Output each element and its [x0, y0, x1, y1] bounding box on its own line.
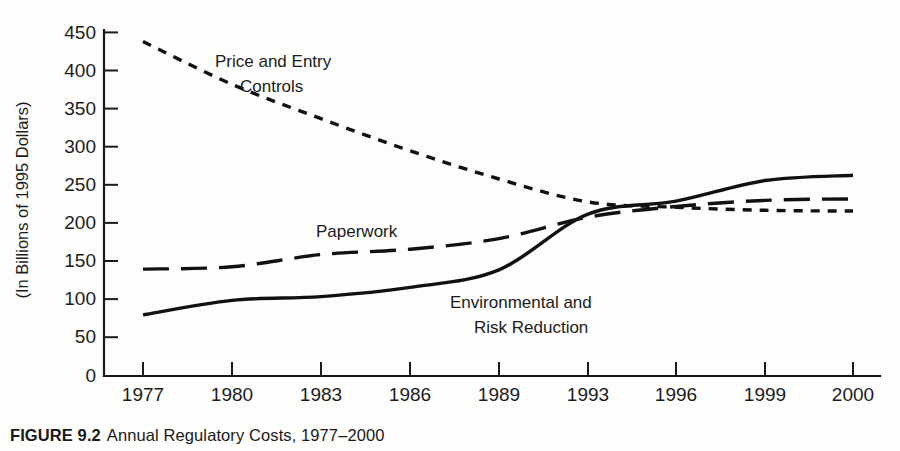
annotation-environmental-and-risk-reduction: Environmental and Risk Reduction [450, 293, 592, 337]
x-tick-label-1986: 1986 [389, 384, 431, 405]
figure-caption-text: Annual Regulatory Costs, 1977–2000 [107, 426, 385, 444]
y-tick-label-400: 400 [64, 60, 96, 81]
y-tick-label-0: 0 [85, 365, 96, 386]
x-tick-label-1999: 1999 [744, 384, 786, 405]
x-tick-label-1980: 1980 [211, 384, 253, 405]
regulatory-costs-line-chart: (In Billions of 1995 Dollars) 450 400 35… [0, 0, 900, 451]
figure-caption-label: FIGURE 9.2 [10, 426, 101, 444]
annotation-environmental-line2: Risk Reduction [474, 318, 588, 337]
annotation-environmental-line1: Environmental and [450, 293, 592, 312]
y-tick-label-200: 200 [64, 212, 96, 233]
annotation-price-and-entry-controls: Price and Entry Controls [215, 52, 332, 96]
y-tick-label-450: 450 [64, 22, 96, 43]
figure-container: (In Billions of 1995 Dollars) 450 400 35… [0, 0, 900, 451]
x-tick-label-1983: 1983 [300, 384, 342, 405]
annotation-price-and-entry-controls-line1: Price and Entry [215, 52, 332, 71]
y-tick-label-150: 150 [64, 250, 96, 271]
y-tick-label-300: 300 [64, 136, 96, 157]
annotation-paperwork: Paperwork [316, 222, 398, 241]
y-axis-ticks: 450 400 350 300 250 200 150 100 50 0 [64, 22, 118, 386]
x-tick-label-1977: 1977 [122, 384, 164, 405]
x-tick-label-1993: 1993 [567, 384, 609, 405]
figure-caption: FIGURE 9.2Annual Regulatory Costs, 1977–… [10, 426, 890, 445]
x-tick-label-1996: 1996 [655, 384, 697, 405]
y-tick-label-100: 100 [64, 288, 96, 309]
annotation-paperwork-line1: Paperwork [316, 222, 398, 241]
x-tick-label-2000: 2000 [832, 384, 874, 405]
y-tick-label-50: 50 [75, 326, 96, 347]
y-tick-label-250: 250 [64, 174, 96, 195]
annotation-price-and-entry-controls-line2: Controls [240, 77, 303, 96]
y-tick-label-350: 350 [64, 98, 96, 119]
y-axis-title: (In Billions of 1995 Dollars) [13, 101, 31, 298]
x-axis-ticks: 1977 1980 1983 1986 1989 1993 1996 1999 … [122, 362, 874, 405]
x-tick-label-1989: 1989 [478, 384, 520, 405]
